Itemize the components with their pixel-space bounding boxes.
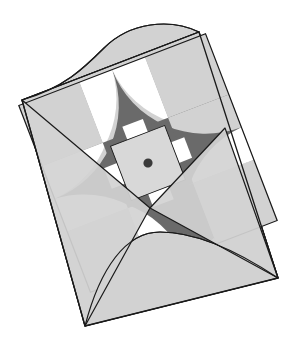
figure-root	[0, 0, 302, 360]
envelope-medallion-figure	[0, 0, 302, 360]
